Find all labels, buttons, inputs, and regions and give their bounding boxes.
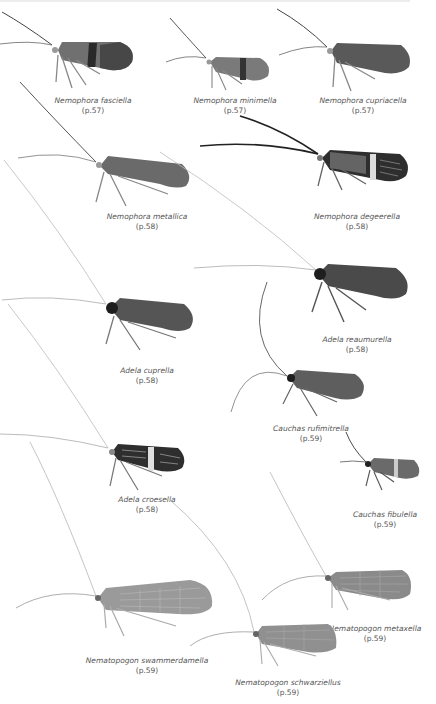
- moth-illustration: [225, 280, 375, 420]
- caption-nematopogon-schwarziellus: Nematopogon schwarziellus (p.59): [235, 678, 341, 698]
- page-ref: (p.59): [235, 688, 341, 698]
- species-name: Nemophora cupriacella: [319, 96, 406, 106]
- moth-illustration: [275, 5, 415, 95]
- species-name: Nemophora minimella: [193, 96, 276, 106]
- moth-illustration: [160, 10, 280, 90]
- moth-illustration: [170, 500, 350, 670]
- species-name: Nematopogon schwarziellus: [235, 678, 341, 688]
